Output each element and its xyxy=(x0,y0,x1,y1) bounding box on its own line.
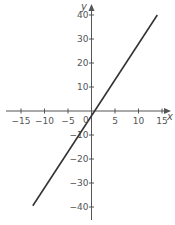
y-tick-label: −40 xyxy=(70,202,89,212)
x-tick-label: 10 xyxy=(133,116,145,126)
y-axis-arrow-icon xyxy=(89,4,95,11)
x-tick-label: 15 xyxy=(156,116,167,126)
y-axis-label: y xyxy=(80,1,88,12)
y-tick-label: 30 xyxy=(77,34,89,44)
x-tick-label: 5 xyxy=(112,116,118,126)
x-tick-label: −15 xyxy=(12,116,31,126)
y-tick-label: 20 xyxy=(77,58,89,68)
x-axis-label: x xyxy=(166,111,173,122)
x-tick-label: −10 xyxy=(35,116,54,126)
axes xyxy=(6,4,171,220)
line-chart: −15−10−55101540302010−10−20−30−40 x y 0 xyxy=(0,0,175,225)
origin-label: 0 xyxy=(83,115,89,125)
y-tick-label: −30 xyxy=(70,178,89,188)
y-tick-label: −20 xyxy=(70,154,89,164)
y-tick-label: 10 xyxy=(77,82,89,92)
x-tick-label: −5 xyxy=(61,116,74,126)
